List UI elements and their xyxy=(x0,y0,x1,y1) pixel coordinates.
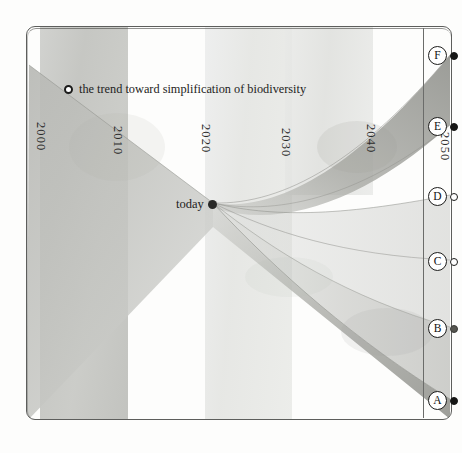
endpoint-e-dot-icon xyxy=(450,123,458,131)
chart-canvas: 2000 2010 2020 2030 2040 2050 the trend … xyxy=(0,0,462,453)
vertical-axis xyxy=(423,28,424,418)
endpoint-c[interactable]: C xyxy=(428,252,458,271)
annotation-label: the trend toward simplification of biodi… xyxy=(79,82,306,97)
endpoint-a-label: A xyxy=(428,391,447,410)
x-tick-2050: 2050 xyxy=(437,132,452,161)
endpoint-a[interactable]: A xyxy=(428,391,458,410)
endpoint-a-dot-icon xyxy=(450,397,458,405)
endpoint-b-dot-icon xyxy=(450,325,458,333)
endpoint-b[interactable]: B xyxy=(428,319,458,338)
endpoint-f[interactable]: F xyxy=(428,46,458,65)
endpoint-c-dot-icon xyxy=(450,258,458,266)
endpoint-c-label: C xyxy=(428,252,447,271)
endpoint-f-label: F xyxy=(428,46,447,65)
endpoint-f-dot-icon xyxy=(450,52,458,60)
today-marker: today xyxy=(176,197,217,212)
endpoint-e-label: E xyxy=(428,117,447,136)
endpoint-d-label: D xyxy=(428,187,447,206)
x-tick-2040: 2040 xyxy=(363,124,378,153)
endpoint-d-dot-icon xyxy=(450,193,458,201)
x-tick-2030: 2030 xyxy=(278,128,293,157)
x-tick-2020: 2020 xyxy=(198,124,213,153)
annotation-ring-icon xyxy=(64,85,73,94)
x-tick-2010: 2010 xyxy=(110,126,125,155)
endpoint-d[interactable]: D xyxy=(428,187,458,206)
today-dot-icon xyxy=(208,200,217,209)
endpoint-b-label: B xyxy=(428,319,447,338)
endpoint-e[interactable]: E xyxy=(428,117,458,136)
trend-annotation: the trend toward simplification of biodi… xyxy=(64,82,306,97)
x-tick-2000: 2000 xyxy=(33,122,48,151)
today-label: today xyxy=(176,197,204,212)
